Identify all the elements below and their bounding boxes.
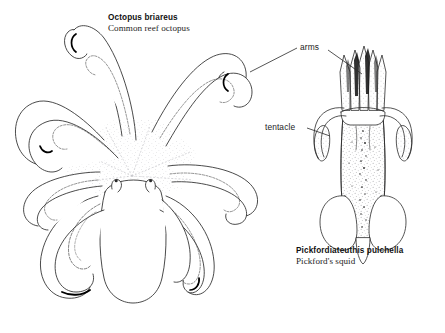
squid-fin-right: [369, 196, 406, 250]
cephalopod-comparison-figure: Octopus briareus Common reef octopus Pic…: [0, 0, 445, 333]
arms-callout-label: arms: [300, 42, 319, 52]
squid-arms: [340, 46, 386, 110]
squid-scientific-name: Pickfordiateuthis pulchella: [296, 246, 403, 256]
squid-tentacle-club-left: [314, 126, 329, 161]
squid-fin-left: [320, 196, 357, 250]
leader-arms-to-octopus: [250, 48, 297, 72]
squid-drawing: [314, 46, 412, 264]
illustration-canvas: [0, 0, 445, 333]
octopus-eye-right-pupil: [149, 179, 152, 182]
squid-label-block: Pickfordiateuthis pulchella Pickford's s…: [296, 246, 403, 267]
octopus-drawing: [15, 26, 257, 303]
squid-common-name: Pickford's squid: [296, 256, 403, 267]
octopus-scientific-name: Octopus briareus: [108, 13, 190, 23]
octopus-label-block: Octopus briareus Common reef octopus: [108, 13, 190, 34]
squid-tentacle-club-right: [396, 126, 411, 161]
octopus-common-name: Common reef octopus: [108, 23, 190, 34]
octopus-mantle: [100, 180, 166, 303]
octopus-eye-left-pupil: [115, 179, 118, 182]
tentacle-callout-label: tentacle: [265, 122, 295, 132]
